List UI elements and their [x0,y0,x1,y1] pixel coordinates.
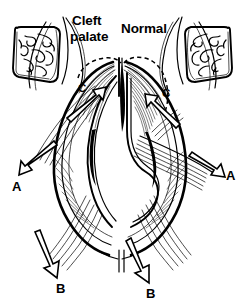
arrow-a-left [19,141,57,175]
label-cleft-palate-line2: palate [70,30,108,44]
label-c-left: C [78,82,86,94]
label-normal: Normal [121,22,167,36]
label-cleft-palate-line1: Cleft [72,14,102,28]
label-a-right: A [226,169,235,183]
arrow-a-right [189,152,225,177]
label-a-left: A [12,180,21,194]
label-c-right: C [162,87,170,99]
arrow-b-right [126,238,149,283]
cut-off-caption-strip [0,299,245,306]
right-inset-palate-drawing [160,17,232,94]
illustration-canvas [0,0,245,306]
figure-root: Cleft palate Normal C C A A B B [0,0,245,306]
label-b-left: B [56,282,65,296]
arrow-b-left [35,230,59,278]
